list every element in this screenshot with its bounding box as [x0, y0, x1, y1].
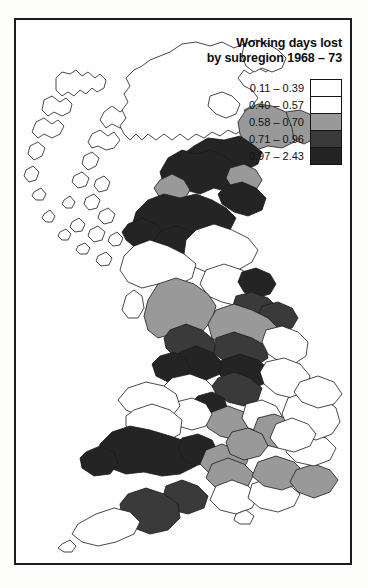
map-legend: Working days lost by subregion 1968 – 73… — [196, 36, 342, 165]
legend-swatch-class-4 — [311, 131, 341, 148]
legend-title-line1: Working days lost — [196, 36, 342, 51]
legend-label-class-3: 0.58 – 0.70 — [249, 114, 304, 131]
map-figure: Working days lost by subregion 1968 – 73… — [0, 0, 368, 588]
legend-body: 0.11 – 0.39 0.40 – 0.57 0.58 – 0.70 0.71… — [196, 79, 342, 165]
legend-label-class-4: 0.71 – 0.96 — [249, 131, 304, 148]
legend-swatch-class-2 — [311, 97, 341, 114]
region-inner-hebrides — [58, 106, 132, 266]
legend-swatch-class-1 — [311, 80, 341, 97]
legend-label-class-1: 0.11 – 0.39 — [250, 80, 304, 97]
legend-swatch-class-3 — [311, 114, 341, 131]
legend-label-class-2: 0.40 – 0.57 — [249, 97, 304, 114]
region-isle-of-man — [122, 290, 144, 318]
legend-swatch-class-5 — [311, 148, 341, 164]
legend-title-line2: by subregion 1968 – 73 — [196, 51, 342, 66]
region-isles-of-scilly — [58, 540, 76, 552]
legend-swatch-column — [310, 79, 342, 165]
legend-label-column: 0.11 – 0.39 0.40 – 0.57 0.58 – 0.70 0.71… — [249, 79, 304, 165]
region-cornwall — [72, 508, 140, 546]
legend-label-class-5: 0.97 – 2.43 — [249, 148, 304, 165]
